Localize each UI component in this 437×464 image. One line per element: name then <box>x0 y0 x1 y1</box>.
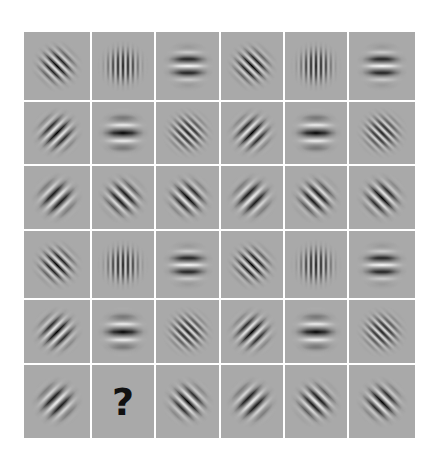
gabor-cell <box>156 231 219 298</box>
gabor-cell <box>24 365 90 438</box>
gabor-cell <box>349 166 415 229</box>
gabor-cell <box>156 300 219 363</box>
gabor-patch-icon <box>158 372 218 432</box>
gabor-cell <box>285 300 347 363</box>
gabor-patch-icon <box>286 372 346 432</box>
gabor-patch-icon <box>286 103 346 163</box>
gabor-puzzle-grid: ? <box>24 32 417 440</box>
gabor-cell <box>221 166 283 229</box>
gabor-cell <box>285 231 347 298</box>
gabor-patch-icon <box>286 36 346 96</box>
gabor-cell <box>156 166 219 229</box>
gabor-cell <box>92 300 154 363</box>
gabor-patch-icon <box>158 302 218 362</box>
gabor-patch-icon <box>93 168 153 228</box>
gabor-cell <box>221 32 283 100</box>
gabor-cell <box>221 300 283 363</box>
gabor-patch-icon <box>286 302 346 362</box>
gabor-cell <box>24 231 90 298</box>
gabor-cell <box>24 300 90 363</box>
gabor-patch-icon <box>93 103 153 163</box>
gabor-patch-icon <box>158 235 218 295</box>
gabor-patch-icon <box>158 36 218 96</box>
gabor-patch-icon <box>27 103 87 163</box>
gabor-patch-icon <box>27 168 87 228</box>
gabor-cell <box>349 231 415 298</box>
gabor-cell <box>24 166 90 229</box>
gabor-patch-icon <box>158 168 218 228</box>
gabor-patch-icon <box>222 103 282 163</box>
gabor-patch-icon <box>27 235 87 295</box>
gabor-cell <box>349 365 415 438</box>
gabor-cell <box>349 102 415 164</box>
gabor-cell <box>221 231 283 298</box>
gabor-patch-icon <box>286 235 346 295</box>
gabor-patch-icon <box>222 302 282 362</box>
gabor-patch-icon <box>27 36 87 96</box>
gabor-patch-icon <box>93 235 153 295</box>
gabor-patch-icon <box>352 235 412 295</box>
gabor-patch-icon <box>27 372 87 432</box>
gabor-patch-icon <box>352 103 412 163</box>
gabor-patch-icon <box>286 168 346 228</box>
gabor-cell <box>92 102 154 164</box>
gabor-patch-icon <box>352 168 412 228</box>
gabor-cell <box>156 32 219 100</box>
gabor-patch-icon <box>93 302 153 362</box>
gabor-patch-icon <box>158 103 218 163</box>
gabor-cell <box>156 102 219 164</box>
gabor-patch-icon <box>222 36 282 96</box>
gabor-patch-icon <box>352 302 412 362</box>
gabor-patch-icon <box>222 168 282 228</box>
gabor-cell <box>285 365 347 438</box>
gabor-cell <box>221 102 283 164</box>
gabor-patch-icon <box>222 372 282 432</box>
gabor-cell <box>285 102 347 164</box>
gabor-cell <box>24 32 90 100</box>
gabor-cell <box>92 231 154 298</box>
gabor-cell <box>24 102 90 164</box>
gabor-cell <box>349 300 415 363</box>
gabor-patch-icon <box>352 372 412 432</box>
gabor-cell <box>92 32 154 100</box>
gabor-cell <box>349 32 415 100</box>
gabor-patch-icon <box>222 235 282 295</box>
gabor-cell <box>156 365 219 438</box>
question-mark-icon: ? <box>112 383 134 421</box>
gabor-patch-icon <box>93 36 153 96</box>
gabor-patch-icon <box>352 36 412 96</box>
gabor-cell <box>92 166 154 229</box>
missing-cell[interactable]: ? <box>92 365 154 438</box>
gabor-cell <box>285 32 347 100</box>
gabor-cell <box>221 365 283 438</box>
gabor-patch-icon <box>27 302 87 362</box>
gabor-cell <box>285 166 347 229</box>
